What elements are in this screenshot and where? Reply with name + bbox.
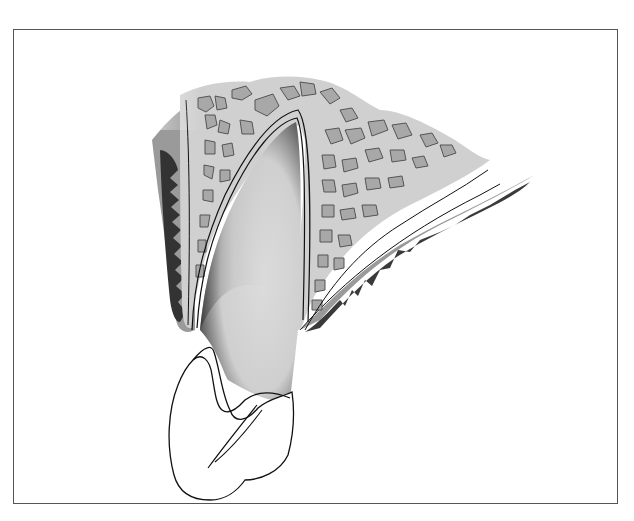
tooth-diagram [0, 0, 634, 521]
